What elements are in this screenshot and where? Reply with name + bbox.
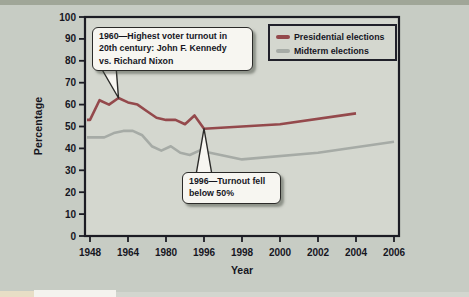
midterm-line-swatch-icon bbox=[276, 49, 290, 53]
x-tick-label: 2002 bbox=[307, 247, 330, 258]
y-tick-label: 100 bbox=[59, 12, 76, 23]
y-tick-label: 90 bbox=[65, 33, 77, 44]
y-axis-title: Percentage bbox=[32, 81, 44, 171]
legend-item-presidential: Presidential elections bbox=[276, 30, 395, 44]
page-corner-cream bbox=[0, 291, 36, 297]
x-tick-label: 1996 bbox=[193, 247, 216, 258]
y-tick-label: 80 bbox=[65, 55, 77, 66]
y-tick-label: 0 bbox=[70, 231, 76, 242]
page-corner-white bbox=[34, 290, 116, 297]
annotation-1996-callout: 1996—Turnout fell below 50% bbox=[182, 172, 281, 204]
x-tick-label: 1980 bbox=[155, 247, 178, 258]
legend-label-presidential: Presidential elections bbox=[294, 32, 384, 42]
y-tick-label: 70 bbox=[65, 77, 77, 88]
y-tick-label: 60 bbox=[65, 99, 77, 110]
chart-legend: Presidential elections Midterm elections bbox=[268, 24, 397, 61]
presidential-line-swatch-icon bbox=[276, 35, 290, 39]
x-tick-label: 2004 bbox=[345, 247, 368, 258]
x-tick-label: 1998 bbox=[231, 247, 254, 258]
x-tick-label: 1964 bbox=[117, 247, 140, 258]
legend-label-midterm: Midterm elections bbox=[294, 46, 369, 56]
y-tick-label: 10 bbox=[65, 209, 77, 220]
y-tick-label: 40 bbox=[65, 143, 77, 154]
x-tick-label: 1948 bbox=[79, 247, 102, 258]
x-tick-label: 2006 bbox=[383, 247, 406, 258]
x-tick-label: 2000 bbox=[269, 247, 292, 258]
y-tick-label: 20 bbox=[65, 187, 77, 198]
x-axis-title: Year bbox=[212, 264, 272, 276]
annotation-1960-callout: 1960—Highest voter turnout in 20th centu… bbox=[92, 27, 253, 71]
y-tick-label: 30 bbox=[65, 165, 77, 176]
legend-item-midterm: Midterm elections bbox=[276, 44, 395, 58]
y-tick-label: 50 bbox=[65, 121, 77, 132]
voter-turnout-figure: 0102030405060708090100194819641980199619… bbox=[0, 0, 469, 297]
